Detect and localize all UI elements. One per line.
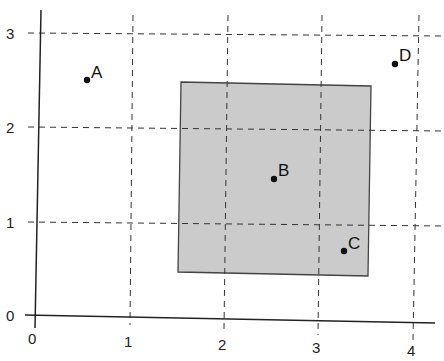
point-b bbox=[271, 176, 277, 182]
point-a bbox=[84, 77, 90, 83]
coordinate-plane: 3 2 1 0 0 1 2 3 4 A B C D bbox=[0, 0, 444, 361]
point-c-label: C bbox=[348, 234, 360, 253]
point-b-label: B bbox=[278, 161, 289, 180]
x-axis bbox=[25, 315, 435, 323]
x-tick-1: 1 bbox=[124, 333, 132, 350]
x-tick-4: 4 bbox=[407, 342, 415, 359]
point-a-label: A bbox=[91, 63, 103, 82]
x-tick-0: 0 bbox=[28, 330, 36, 347]
point-d-label: D bbox=[399, 46, 411, 65]
y-tick-1: 1 bbox=[6, 214, 14, 231]
x-tick-3: 3 bbox=[312, 339, 320, 356]
y-tick-3: 3 bbox=[6, 25, 14, 42]
y-tick-2: 2 bbox=[6, 119, 14, 136]
point-d bbox=[392, 61, 398, 67]
x-tick-2: 2 bbox=[218, 336, 226, 353]
point-c bbox=[341, 248, 347, 254]
y-tick-0: 0 bbox=[6, 307, 14, 324]
y-axis bbox=[35, 10, 41, 328]
